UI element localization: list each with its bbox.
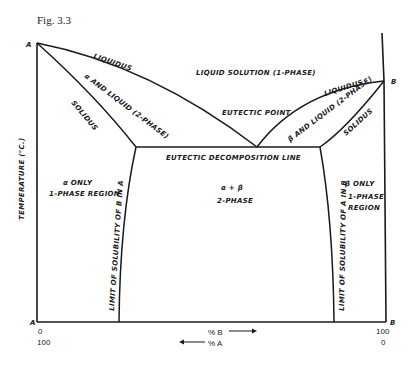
label-liquidus-left: LIQUIDUS (92, 52, 133, 73)
arrow-left-head-icon (179, 340, 184, 345)
region-beta-only-2: 1-PHASE (348, 193, 384, 201)
solidus-left-line (37, 43, 136, 147)
point-b-top: B (391, 78, 396, 86)
y-axis-label: TEMPERATURE (°C.) (18, 138, 26, 220)
point-b-bottom: B (390, 319, 395, 327)
phase-diagram: Fig. 3.3 A B A B TEMPERATURE (°C.) LIQUI… (0, 0, 414, 365)
point-a-top: A (25, 41, 31, 49)
liquidus-left-line (37, 43, 257, 147)
label-solidus-left: SOLIDUS (69, 99, 99, 132)
region-two-phase-1: α + β (221, 184, 243, 192)
region-two-phase-2: 2-PHASE (217, 197, 253, 205)
solvus-right-line (320, 147, 334, 322)
x-left-top: 0 (38, 327, 43, 336)
x-label-pct-a: % A (208, 339, 223, 348)
arrow-right-head-icon (252, 329, 257, 334)
right-axis (382, 33, 386, 322)
region-alpha-liquid: α AND LIQUID (2-PHASE) (83, 72, 170, 141)
region-liquid: LIQUID SOLUTION (1-PHASE) (196, 69, 316, 77)
region-alpha-only-1: α ONLY (63, 179, 93, 187)
label-eutectic-line: EUTECTIC DECOMPOSITION LINE (166, 154, 301, 162)
x-left-bottom: 100 (37, 338, 51, 347)
region-alpha-only-2: 1-PHASE REGION (49, 190, 120, 198)
point-a-bottom: A (29, 319, 35, 327)
x-right-top: 100 (376, 327, 390, 336)
region-beta-only-3: REGION (348, 204, 380, 212)
x-right-bottom: 0 (381, 338, 386, 347)
x-label-pct-b: % B (208, 328, 223, 337)
label-eutectic-point: EUTECTIC POINT (222, 109, 292, 117)
solvus-left-line (119, 147, 136, 322)
label-solvus-right: LIMIT OF SOLUBILITY OF A IN B (338, 180, 348, 311)
region-beta-only-1: β ONLY (344, 180, 375, 188)
figure-title: Fig. 3.3 (37, 14, 71, 26)
phase-diagram-svg: Fig. 3.3 A B A B TEMPERATURE (°C.) LIQUI… (0, 0, 414, 365)
